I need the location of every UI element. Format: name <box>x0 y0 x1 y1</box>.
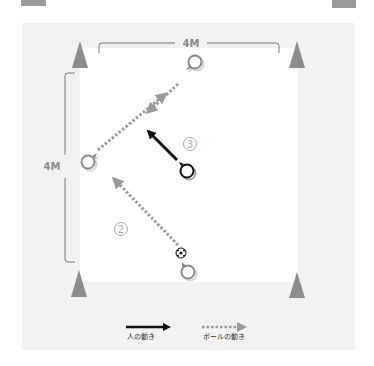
legend-ball-label: ボールの動き <box>203 332 245 341</box>
header-block-left <box>21 0 46 6</box>
step-2-badge: 2 <box>115 223 128 236</box>
header-block-right <box>332 0 356 8</box>
soccer-ball-icon <box>176 248 186 258</box>
legend-person-label: 人の動き <box>127 332 155 341</box>
top-dimension-label: 4M <box>183 38 200 49</box>
svg-text:2: 2 <box>118 224 124 235</box>
left-dimension-label: 4M <box>44 161 61 172</box>
drill-diagram: 4M 4M 3 <box>0 0 374 366</box>
step-3-badge: 3 <box>184 138 197 151</box>
svg-text:3: 3 <box>187 139 193 150</box>
